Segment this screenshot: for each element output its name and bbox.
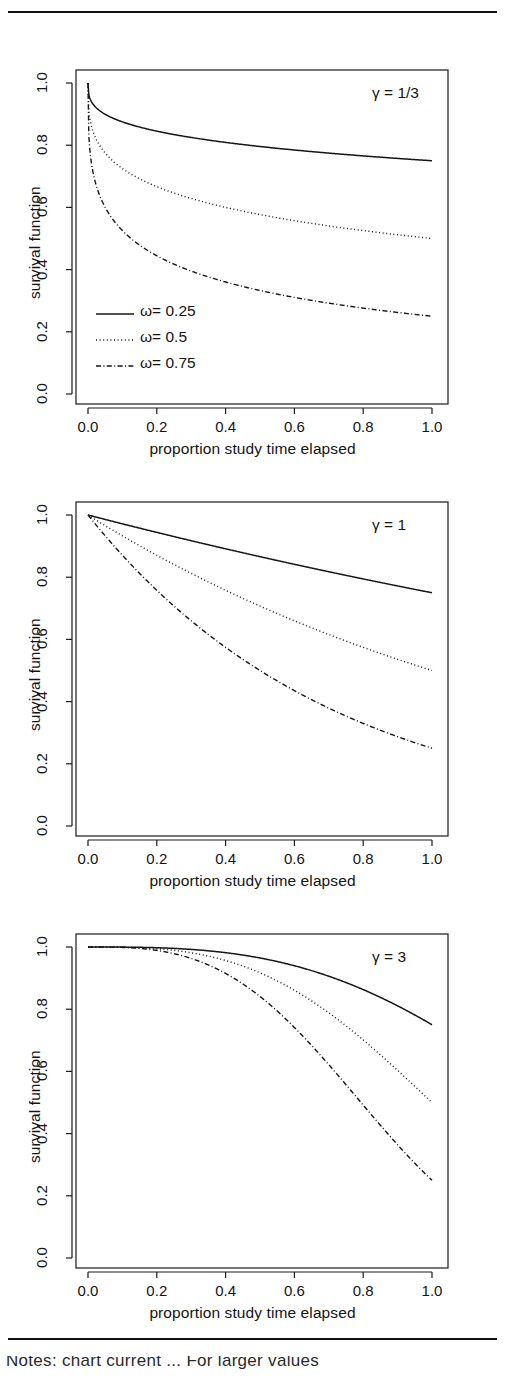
x-tick-label: 0.8: [353, 1282, 374, 1299]
gamma-annotation: γ = 1: [372, 516, 406, 534]
x-tick-label: 0.4: [215, 418, 236, 435]
legend-line-sample: [96, 359, 136, 373]
x-tick-label: 0.0: [78, 1282, 99, 1299]
x-tick-label: 0.4: [215, 850, 236, 867]
x-tick-label: 0.4: [215, 1282, 236, 1299]
y-axis-label: survival function: [26, 186, 44, 299]
legend-line-sample: [96, 333, 136, 347]
y-axis-label: survival function: [26, 618, 44, 731]
caption-fragment-text: Notes: chart current ... For larger valu…: [6, 1356, 505, 1371]
x-axis-label: proportion study time elapsed: [0, 440, 505, 458]
x-tick-label: 1.0: [422, 418, 443, 435]
y-tick-label: 0.0: [33, 377, 50, 411]
x-tick-label: 0.2: [146, 850, 167, 867]
plot-area-1: [0, 466, 505, 896]
chart-panel-gamma-three: 0.00.20.40.60.81.00.00.20.40.60.81.0prop…: [0, 898, 505, 1328]
y-tick-label: 1.0: [33, 930, 50, 964]
x-tick-label: 0.8: [353, 850, 374, 867]
plot-area-0: [0, 34, 505, 464]
curve-dotted: [88, 515, 432, 671]
curve-dashdot: [88, 947, 432, 1180]
x-tick-label: 0.6: [284, 418, 305, 435]
y-axis-label: survival function: [26, 1050, 44, 1163]
x-tick-label: 0.0: [78, 850, 99, 867]
curve-dotted: [88, 947, 432, 1103]
legend-entry-label: ω= 0.25: [140, 302, 196, 320]
x-tick-label: 0.6: [284, 850, 305, 867]
chart-panel-gamma-one-third: 0.00.20.40.60.81.00.00.20.40.60.81.0prop…: [0, 34, 505, 464]
y-tick-label: 0.2: [33, 746, 50, 780]
gamma-annotation: γ = 1/3: [372, 84, 419, 102]
curve-dotted: [88, 83, 432, 239]
legend-line-sample: [96, 307, 136, 321]
y-tick-label: 1.0: [33, 66, 50, 100]
x-tick-label: 1.0: [422, 1282, 443, 1299]
curve-dashdot: [88, 83, 432, 316]
plot-area-2: [0, 898, 505, 1328]
x-tick-label: 0.0: [78, 418, 99, 435]
gamma-annotation: γ = 3: [372, 948, 406, 966]
top-horizontal-rule: [8, 11, 497, 13]
x-tick-label: 0.2: [146, 1282, 167, 1299]
y-tick-label: 0.8: [33, 128, 50, 162]
caption-fragment-clipped: Notes: chart current ... For larger valu…: [0, 1356, 505, 1380]
curve-dashdot: [88, 515, 432, 748]
x-axis-label: proportion study time elapsed: [0, 872, 505, 890]
legend-entry-label: ω= 0.75: [140, 354, 196, 372]
y-tick-label: 0.8: [33, 992, 50, 1026]
y-tick-label: 0.0: [33, 809, 50, 843]
y-tick-label: 0.0: [33, 1241, 50, 1275]
x-axis-label: proportion study time elapsed: [0, 1304, 505, 1322]
legend-entry-label: ω= 0.5: [140, 328, 187, 346]
bottom-horizontal-rule: [8, 1338, 497, 1340]
chart-panel-gamma-one: 0.00.20.40.60.81.00.00.20.40.60.81.0prop…: [0, 466, 505, 896]
y-tick-label: 0.2: [33, 314, 50, 348]
y-tick-label: 0.8: [33, 560, 50, 594]
y-tick-label: 0.2: [33, 1178, 50, 1212]
x-tick-label: 0.8: [353, 418, 374, 435]
x-tick-label: 0.2: [146, 418, 167, 435]
x-tick-label: 1.0: [422, 850, 443, 867]
x-tick-label: 0.6: [284, 1282, 305, 1299]
y-tick-label: 1.0: [33, 498, 50, 532]
